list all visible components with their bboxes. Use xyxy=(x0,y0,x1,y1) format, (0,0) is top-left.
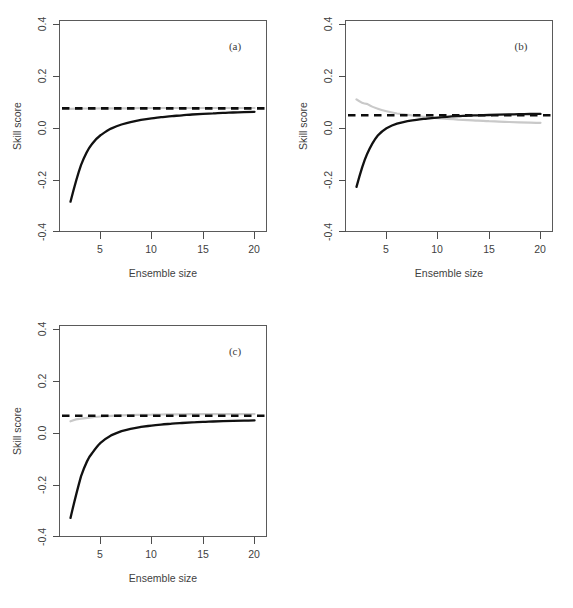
panel-a-series xyxy=(62,108,265,202)
y-ticklabel: -0.4 xyxy=(36,223,48,241)
panel-a-x-ticklabels: 5 10 15 20 xyxy=(97,243,260,255)
y-ticklabel: -0.2 xyxy=(36,476,48,494)
figure-root: 0.4 0.2 0.0 -0.2 -0.4 5 10 15 2 xyxy=(0,0,573,608)
y-ticklabel: 0.0 xyxy=(36,426,48,441)
x-ticklabel: 5 xyxy=(97,548,103,560)
panel-a-xlabel: Ensemble size xyxy=(129,267,197,279)
panel-a-gray-curve xyxy=(71,108,255,109)
y-ticklabel: -0.4 xyxy=(36,528,48,546)
y-ticklabel: -0.2 xyxy=(36,171,48,189)
x-ticklabel: 20 xyxy=(248,548,260,560)
panel-c-plot-box xyxy=(60,326,267,537)
panel-c-axes: 0.4 0.2 0.0 -0.2 -0.4 5 10 15 20 xyxy=(11,322,267,584)
panel-c-plot: 0.4 0.2 0.0 -0.2 -0.4 5 10 15 20 xyxy=(0,313,286,598)
panel-c-solid-curve xyxy=(71,420,255,518)
x-ticklabel: 15 xyxy=(197,243,209,255)
panel-a-plot-box xyxy=(60,21,267,232)
panel-b-plot-box xyxy=(346,21,553,232)
panel-b-plot: 0.4 0.2 0.0 -0.2 -0.4 5 10 15 20 xyxy=(286,8,573,293)
panel-b-xlabel: Ensemble size xyxy=(415,267,483,279)
panel-b-series xyxy=(348,99,551,186)
x-ticklabel: 5 xyxy=(97,243,103,255)
panel-c-series xyxy=(62,414,265,518)
x-ticklabel: 20 xyxy=(534,243,546,255)
panel-c-y-ticklabels: 0.4 0.2 0.0 -0.2 -0.4 xyxy=(36,322,48,546)
panel-b-axes: 0.4 0.2 0.0 -0.2 -0.4 5 10 15 20 xyxy=(297,17,553,279)
panel-a-plot: 0.4 0.2 0.0 -0.2 -0.4 5 10 15 2 xyxy=(0,8,286,293)
y-ticklabel: 0.4 xyxy=(322,17,334,32)
panel-b-x-ticks xyxy=(387,232,541,239)
x-ticklabel: 10 xyxy=(145,243,157,255)
panel-b-ylabel: Skill score xyxy=(297,102,309,150)
y-ticklabel: -0.2 xyxy=(322,171,334,189)
panel-a-y-ticks xyxy=(53,25,60,232)
x-ticklabel: 15 xyxy=(197,548,209,560)
y-ticklabel: 0.0 xyxy=(36,121,48,136)
panel-a-label: (a) xyxy=(229,40,242,53)
panel-a: 0.4 0.2 0.0 -0.2 -0.4 5 10 15 2 xyxy=(0,8,286,293)
panel-b-y-ticklabels: 0.4 0.2 0.0 -0.2 -0.4 xyxy=(322,17,334,241)
x-ticklabel: 5 xyxy=(383,243,389,255)
clipped-header-text xyxy=(0,0,573,3)
clipped-footer-text xyxy=(18,604,558,608)
y-ticklabel: 0.2 xyxy=(36,69,48,84)
panel-b-x-ticklabels: 5 10 15 20 xyxy=(383,243,546,255)
y-ticklabel: 0.2 xyxy=(36,374,48,389)
panel-b-gray-curve xyxy=(357,99,541,122)
panel-a-y-ticklabels: 0.4 0.2 0.0 -0.2 -0.4 xyxy=(36,17,48,241)
panel-c: 0.4 0.2 0.0 -0.2 -0.4 5 10 15 20 xyxy=(0,313,286,598)
panel-c-x-ticklabels: 5 10 15 20 xyxy=(97,548,260,560)
y-ticklabel: 0.0 xyxy=(322,121,334,136)
panel-a-axes: 0.4 0.2 0.0 -0.2 -0.4 5 10 15 2 xyxy=(11,17,267,279)
panel-b-y-ticks xyxy=(339,25,346,232)
panel-c-label: (c) xyxy=(229,345,242,358)
panel-b: 0.4 0.2 0.0 -0.2 -0.4 5 10 15 20 xyxy=(286,8,573,293)
x-ticklabel: 15 xyxy=(483,243,495,255)
y-ticklabel: -0.4 xyxy=(322,223,334,241)
panel-b-label: (b) xyxy=(515,40,528,53)
panel-c-ylabel: Skill score xyxy=(11,407,23,455)
x-ticklabel: 10 xyxy=(431,243,443,255)
panel-c-xlabel: Ensemble size xyxy=(129,572,197,584)
y-ticklabel: 0.2 xyxy=(322,69,334,84)
x-ticklabel: 20 xyxy=(248,243,260,255)
panel-c-y-ticks xyxy=(53,330,60,537)
panel-c-x-ticks xyxy=(101,537,255,544)
y-ticklabel: 0.4 xyxy=(36,322,48,337)
panel-a-ylabel: Skill score xyxy=(11,102,23,150)
panel-b-solid-curve xyxy=(357,114,541,187)
panel-a-x-ticks xyxy=(101,232,255,239)
x-ticklabel: 10 xyxy=(145,548,157,560)
y-ticklabel: 0.4 xyxy=(36,17,48,32)
panel-a-solid-curve xyxy=(71,112,255,202)
